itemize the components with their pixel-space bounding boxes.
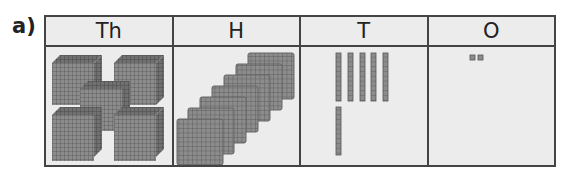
header-ones: O <box>428 16 556 46</box>
header-hundreds: H <box>173 16 301 46</box>
cell-tens <box>300 46 428 166</box>
ten-rods-icon <box>301 47 427 165</box>
thousand-cubes-icon <box>46 47 172 165</box>
hundred-flats-icon <box>174 47 300 165</box>
one-cubes-icon <box>429 47 555 165</box>
place-value-chart: Th H T O <box>44 15 556 167</box>
cell-ones <box>428 46 556 166</box>
header-tens: T <box>300 16 428 46</box>
question-label: a) <box>12 14 36 38</box>
cell-thousands <box>45 46 173 166</box>
header-thousands: Th <box>45 16 173 46</box>
cell-hundreds <box>173 46 301 166</box>
